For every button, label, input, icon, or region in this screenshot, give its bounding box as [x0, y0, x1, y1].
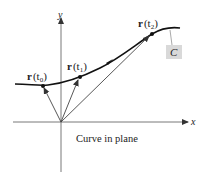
c-leader-line [170, 30, 172, 45]
label-r-t1: r(t1) [67, 60, 87, 74]
point-t1 [78, 75, 82, 79]
vector-r-t1 [61, 80, 78, 122]
point-t0 [41, 84, 45, 88]
position-vectors [44, 36, 149, 122]
label-r-t2: r(t2) [138, 17, 158, 31]
curve-label-c: C [170, 46, 178, 58]
point-t2 [150, 32, 154, 36]
curve-diagram: x y r(t0) r(t1) r(t2) C Curve in plane [0, 0, 202, 183]
y-axis-label: y [57, 9, 63, 20]
caption: Curve in plane [76, 133, 138, 144]
x-axis-label: x [190, 116, 196, 127]
label-r-t0: r(t0) [27, 70, 47, 84]
vector-r-t0 [44, 88, 61, 122]
axes: x y [13, 9, 196, 172]
